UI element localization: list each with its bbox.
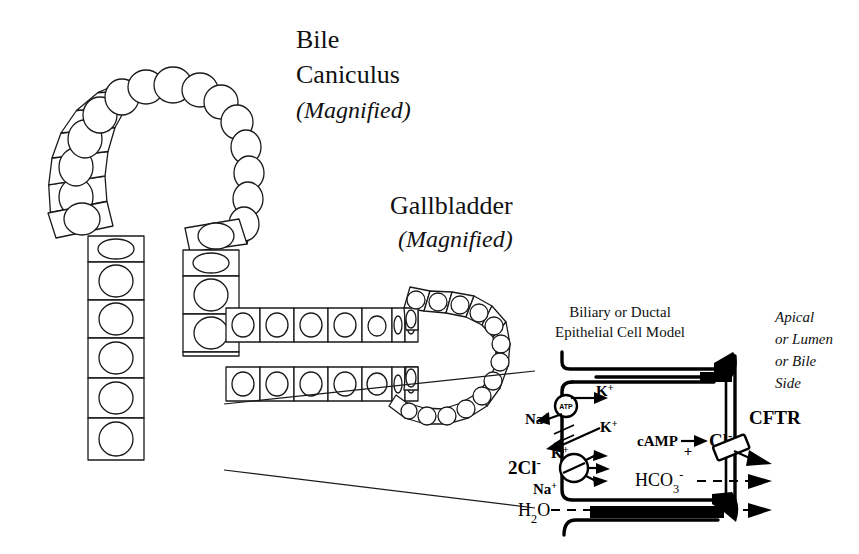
cftr-label: CFTR [749,407,801,428]
camp-plus-sign: + [684,443,693,459]
leader-line-lower [224,470,535,508]
figure-canvas: Bile Caniculus (Magnified) Gallbladder (… [0,0,859,554]
cell-nucleus [429,293,447,311]
cell-nucleus [266,372,288,396]
cell-nucleus [232,372,254,396]
cotransport-arrowhead-2 [596,463,610,474]
cell-nucleus [473,387,491,405]
cell-nucleus [300,372,322,396]
basal-dark-band [590,506,724,518]
cell-nucleus [394,316,402,334]
cell-nucleus [418,407,436,425]
cell-nucleus [194,279,228,311]
cell-nucleus [394,375,402,393]
cell-nucleus [334,313,356,337]
cell-nucleus [401,403,417,419]
cl-cotransport-label: 2Cl- [508,455,541,479]
model-title-line2: Epithelial Cell Model [555,324,685,340]
gallbladder-epithelium [389,287,510,425]
cotransport-arrowhead-3 [593,476,608,487]
cell-nucleus [457,400,475,418]
tight-junction-upper2 [700,372,732,382]
water-arrowhead [748,503,772,518]
cell-nucleus [99,342,133,374]
gallbladder-ring-cells [389,287,510,425]
cftr-pathway: cAMP + Cl- CFTR [637,407,801,466]
duct-lower-row [226,367,418,401]
cell-nucleus [99,422,133,456]
cell-nucleus [198,223,234,249]
gallbladder-title-line2: (Magnified) [398,226,513,252]
cotransport-arrowhead-1 [593,450,608,461]
apical-label-line1: Apical [774,309,814,325]
cell-nucleus [194,317,228,349]
cell-nucleus [64,203,100,235]
cell-nucleus [368,316,386,336]
k-top-label: K+ [596,382,614,400]
bicarbonate-label: HCO3- [635,468,683,496]
cell-nucleus [491,353,509,371]
biliary-anatomy-diagram: Bile Caniculus (Magnified) Gallbladder (… [0,0,859,554]
cell-nucleus [492,335,510,353]
cell-nucleus [99,303,133,335]
model-title-line1: Biliary or Ductal [569,304,671,320]
na-bottom-label: Na+ [533,480,557,498]
apical-label-line2: or Lumen [775,331,833,347]
cell-nucleus [99,265,133,297]
gallbladder-title-line1: Gallbladder [390,191,513,220]
duct-cell [183,352,239,356]
canaliculus-title: Bile Caniculus (Magnified) [296,25,411,123]
k-channel-bar1 [554,425,574,434]
gallbladder-title: Gallbladder (Magnified) [390,191,513,252]
cell-nucleus [407,291,425,309]
upper-neighbor-cell-membrane [562,352,714,369]
duct-left-terminals [183,352,239,356]
duct-upper-row [226,308,418,342]
bicarbonate-transport: HCO3- [635,468,772,496]
canaliculus-left-column [48,202,144,461]
apical-label-line3: or Bile [775,353,817,369]
camp-label: cAMP [637,433,678,449]
cell-nucleus [193,253,229,273]
cell-nucleus [232,313,254,337]
cell-nucleus [99,382,133,414]
nkcc-cotransporter [560,450,610,487]
cell-nucleus [406,310,416,328]
canaliculus-title-line1: Bile [296,25,339,54]
cell-nucleus [266,313,288,337]
cell-nucleus [98,239,134,259]
cell-nucleus [367,373,387,395]
canaliculus-title-line2: Caniculus [296,60,400,89]
lower-neighbor-cell-membrane [564,520,718,535]
k-mid-label: K+ [600,418,618,436]
cell-nucleus [485,317,503,335]
canaliculus-title-line3: (Magnified) [296,97,411,123]
cftr-efflux-arrowhead [746,450,772,466]
apical-label-line4: Side [775,375,801,391]
na-left-label: Na+ [525,410,549,428]
cell-nucleus [451,296,469,314]
water-label: H2O [518,500,550,526]
bicarbonate-arrowhead [748,474,772,489]
epithelial-cell-model: ATP [508,352,801,535]
camp-arrowhead [694,435,708,447]
cell-nucleus [438,407,456,425]
cell-nucleus [470,304,488,322]
apical-side-label: Apical or Lumen or Bile Side [774,309,833,391]
cell-model-title: Biliary or Ductal Epithelial Cell Model [555,304,685,340]
atp-label: ATP [559,403,573,410]
cell-nucleus [300,313,322,337]
